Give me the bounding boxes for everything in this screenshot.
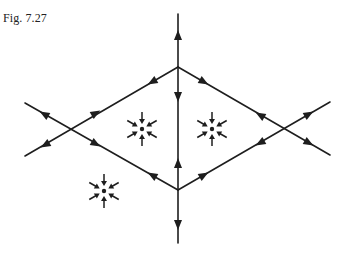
phase-portrait-diagram bbox=[0, 0, 339, 255]
arrow-icon bbox=[254, 109, 267, 121]
sink-node-outer-lower-left bbox=[88, 174, 120, 208]
arrow-icon bbox=[146, 169, 159, 181]
arrow-icon bbox=[39, 139, 52, 151]
sink-node-right-inner bbox=[196, 112, 228, 146]
arrow-down-icon bbox=[174, 92, 182, 102]
arrow-icon bbox=[254, 137, 267, 149]
flow-arrows bbox=[38, 30, 316, 230]
arrow-icon bbox=[90, 138, 103, 150]
arrow-icon bbox=[303, 108, 316, 120]
arrow-up-icon bbox=[174, 158, 182, 168]
arrow-down-icon bbox=[174, 220, 182, 230]
arrow-icon bbox=[303, 137, 316, 149]
arrow-icon bbox=[146, 76, 159, 88]
arrow-icon bbox=[198, 169, 211, 181]
arrow-up-icon bbox=[174, 30, 182, 40]
arrow-icon bbox=[198, 76, 211, 88]
arrow-icon bbox=[38, 108, 51, 120]
sink-node-left-inner bbox=[126, 112, 158, 146]
